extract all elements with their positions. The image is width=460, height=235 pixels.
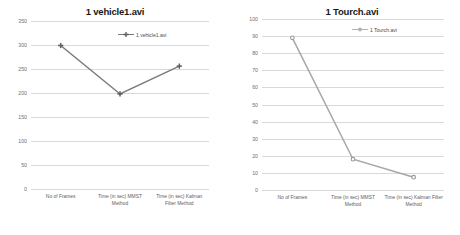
series-line-right <box>262 19 444 190</box>
y-axis-tick-label: 100 <box>249 16 258 22</box>
y-axis-tick-label: 60 <box>252 84 258 90</box>
y-axis-tick-label: 100 <box>18 138 27 144</box>
legend-left: 1 vehicle1.avi <box>118 31 166 38</box>
plot-wrap-left: 050100150200250300350 1 vehicle1.avi No … <box>0 0 230 235</box>
y-axis-tick-label: 200 <box>18 90 27 96</box>
y-axis-tick-label: 50 <box>252 102 258 108</box>
y-axis-tick-label: 0 <box>255 187 258 193</box>
series-polyline <box>292 38 413 177</box>
y-axis-labels-left: 050100150200250300350 <box>0 21 29 189</box>
data-point-marker <box>351 157 355 161</box>
legend-marker-icon-left <box>118 31 134 38</box>
legend-label-left: 1 vehicle1.avi <box>136 32 166 38</box>
y-axis-tick-label: 20 <box>252 153 258 159</box>
gridline <box>262 190 444 191</box>
y-axis-tick-label: 80 <box>252 50 258 56</box>
x-axis-tick-label: Time (in sec) Kalman Filter Method <box>150 193 209 207</box>
gridline <box>31 189 209 190</box>
y-axis-tick-label: 30 <box>252 136 258 142</box>
x-axis-tick-label: No of Frames <box>31 193 90 207</box>
y-axis-tick-label: 250 <box>18 66 27 72</box>
chart-panel-left: 1 vehicle1.avi 050100150200250300350 1 v… <box>0 0 230 235</box>
plot-wrap-right: 0102030405060708090100 1 Tourch.avi No o… <box>230 0 460 235</box>
y-axis-tick-label: 50 <box>21 162 27 168</box>
y-axis-tick-label: 350 <box>18 18 27 24</box>
x-axis-tick-label: Time (in sec) MMST Method <box>323 194 384 208</box>
plot-area-right <box>262 19 444 190</box>
legend-marker-icon-right <box>352 26 368 33</box>
y-axis-tick-label: 10 <box>252 170 258 176</box>
y-axis-labels-right: 0102030405060708090100 <box>230 19 260 190</box>
x-axis-labels-right: No of FramesTime (in sec) MMST MethodTim… <box>262 194 444 208</box>
series-line-left <box>31 21 209 189</box>
x-axis-labels-left: No of FramesTime (in sec) MMST MethodTim… <box>31 193 209 207</box>
y-axis-tick-label: 0 <box>24 186 27 192</box>
data-point-marker <box>412 175 416 179</box>
y-axis-tick-label: 90 <box>252 33 258 39</box>
x-axis-tick-label: Time (in sec) MMST Method <box>90 193 149 207</box>
y-axis-tick-label: 70 <box>252 67 258 73</box>
x-axis-tick-label: No of Frames <box>262 194 323 208</box>
y-axis-tick-label: 300 <box>18 42 27 48</box>
plot-area-left <box>31 21 209 189</box>
y-axis-tick-label: 150 <box>18 114 27 120</box>
series-polyline <box>61 45 180 93</box>
x-axis-tick-label: Time (in sec) Kalman Filter Method <box>383 194 444 208</box>
charts-page: 1 vehicle1.avi 050100150200250300350 1 v… <box>0 0 460 235</box>
legend-label-right: 1 Tourch.avi <box>370 27 397 33</box>
data-point-marker <box>291 36 295 40</box>
legend-right: 1 Tourch.avi <box>352 26 397 33</box>
chart-panel-right: 1 Tourch.avi 0102030405060708090100 1 To… <box>230 0 460 235</box>
y-axis-tick-label: 40 <box>252 119 258 125</box>
